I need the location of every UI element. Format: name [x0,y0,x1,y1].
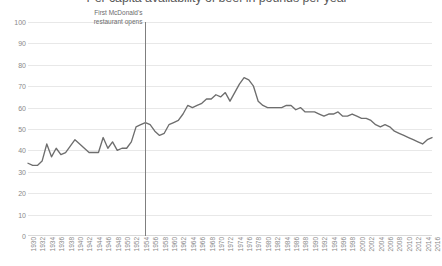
x-axis-tick-label: 1936 [59,237,66,251]
x-axis-tick-label: 1952 [134,237,141,251]
x-axis-tick-label: 1938 [69,237,76,251]
x-axis-tick-label: 2010 [407,237,414,251]
x-axis-tick-label: 1966 [200,237,207,251]
x-axis-tick-label: 1978 [256,237,263,251]
x-axis-tick-label: 2016 [435,237,442,251]
annotation-line-2: restaurant opens [0,17,142,26]
x-axis-tick-label: 1996 [341,237,348,251]
x-axis-tick-label: 1960 [172,237,179,251]
plot-area [28,22,432,236]
y-axis-tick-label: 90 [4,40,26,47]
y-axis-tick-label: 80 [4,61,26,68]
x-axis-tick-label: 1986 [294,237,301,251]
annotation-line-1: First McDonald's [0,8,142,17]
y-axis-tick-label: 40 [4,147,26,154]
x-axis: 1930193219341936193819401942194419461948… [28,237,432,266]
x-axis-tick-label: 1958 [163,237,170,251]
x-axis-tick-label: 1950 [125,237,132,251]
x-axis-tick-label: 2014 [426,237,433,251]
x-axis-tick-label: 1940 [78,237,85,251]
y-axis-tick-label: 70 [4,83,26,90]
x-axis-tick-label: 2002 [369,237,376,251]
x-axis-tick-label: 1982 [275,237,282,251]
x-axis-tick-label: 1944 [97,237,104,251]
x-axis-tick-label: 1974 [238,237,245,251]
y-axis-tick-label: 60 [4,104,26,111]
first-mcdonalds-marker-line [145,22,146,236]
x-axis-tick-label: 1984 [285,237,292,251]
x-axis-tick-label: 1942 [87,237,94,251]
x-axis-tick-label: 1954 [144,237,151,251]
x-axis-tick-label: 1976 [247,237,254,251]
x-axis-tick-label: 1998 [350,237,357,251]
chart-title: Per capita availability of beef in pound… [0,0,434,5]
x-axis-tick-label: 1990 [313,237,320,251]
y-axis-tick-label: 30 [4,168,26,175]
x-axis-tick-label: 1992 [322,237,329,251]
x-axis-tick-label: 2012 [416,237,423,251]
y-axis-tick-label: 20 [4,190,26,197]
x-axis-tick-label: 1964 [191,237,198,251]
x-axis-tick-label: 2004 [379,237,386,251]
x-axis-tick-label: 1980 [266,237,273,251]
y-axis-tick-label: 0 [4,233,26,240]
x-axis-tick-label: 1988 [303,237,310,251]
x-axis-tick-label: 1932 [40,237,47,251]
x-axis-tick-label: 1948 [116,237,123,251]
x-axis-tick-label: 1946 [106,237,113,251]
data-series-svg [28,22,432,236]
beef-availability-line [28,78,432,166]
x-axis-tick-label: 1994 [332,237,339,251]
x-axis-tick-label: 2000 [360,237,367,251]
y-axis-tick-label: 10 [4,211,26,218]
x-axis-tick-label: 2006 [388,237,395,251]
x-axis-tick-label: 1972 [228,237,235,251]
x-axis-tick-label: 1968 [210,237,217,251]
x-axis-tick-label: 1934 [50,237,57,251]
x-axis-tick-label: 1930 [31,237,38,251]
y-axis-tick-label: 50 [4,126,26,133]
x-axis-tick-label: 1956 [153,237,160,251]
x-axis-tick-label: 1962 [181,237,188,251]
x-axis-tick-label: 1970 [219,237,226,251]
first-mcdonalds-annotation: First McDonald's restaurant opens [0,8,142,26]
x-axis-tick-label: 2008 [397,237,404,251]
